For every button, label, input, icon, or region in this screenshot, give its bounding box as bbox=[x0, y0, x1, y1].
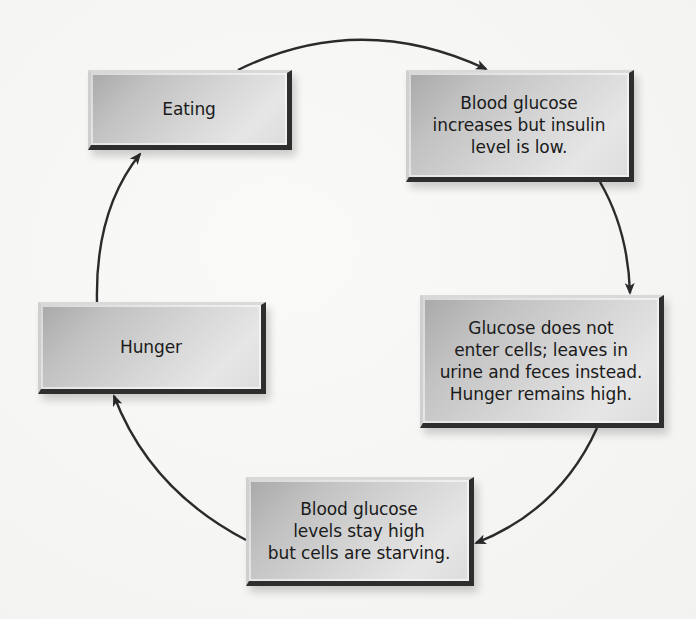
node-hunger-label: Hunger bbox=[112, 332, 190, 362]
node-cells-starving: Blood glucose levels stay high but cells… bbox=[246, 477, 474, 586]
node-eating: Eating bbox=[88, 70, 292, 150]
arrow-cells-starving-to-hunger bbox=[114, 396, 246, 540]
arrow-not-enter-to-cells-starving bbox=[476, 428, 597, 543]
node-glucose-increases-label: Blood glucose increases but insulin leve… bbox=[425, 88, 614, 162]
node-glucose-not-enter-label: Glucose does not enter cells; leaves in … bbox=[432, 313, 651, 409]
node-eating-label: Eating bbox=[154, 94, 224, 124]
node-glucose-not-enter: Glucose does not enter cells; leaves in … bbox=[420, 295, 664, 428]
arrow-glucose-increases-to-not-enter bbox=[600, 182, 630, 293]
node-cells-starving-label: Blood glucose levels stay high but cells… bbox=[260, 494, 458, 568]
arrow-eating-to-glucose-increases bbox=[238, 40, 486, 70]
arrow-hunger-to-eating bbox=[97, 154, 140, 302]
diagram-canvas: Eating Blood glucose increases but insul… bbox=[0, 0, 696, 619]
node-glucose-increases: Blood glucose increases but insulin leve… bbox=[406, 70, 634, 182]
node-hunger: Hunger bbox=[38, 302, 266, 394]
